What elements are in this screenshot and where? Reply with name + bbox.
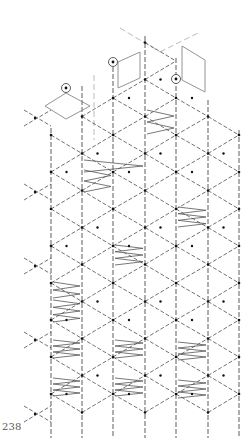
center-dot — [65, 393, 67, 395]
diagonal-line — [176, 246, 208, 265]
zigzag-thread — [53, 300, 80, 322]
diagonal-line — [113, 394, 145, 413]
diagonal-line — [145, 394, 176, 413]
center-dot — [128, 245, 130, 247]
pin-dot — [144, 300, 147, 303]
diagonal-line — [113, 228, 145, 247]
diagonal-line — [208, 339, 239, 358]
pin-dot — [207, 337, 210, 340]
diagonal-line — [51, 228, 82, 247]
pin-dot — [81, 263, 84, 266]
diagonal-line — [145, 209, 176, 228]
pin-dot — [81, 226, 84, 229]
diagonal-line — [82, 320, 113, 339]
pin-dot — [238, 134, 241, 137]
diagonal-line — [176, 154, 208, 173]
diagonal-line — [145, 172, 176, 191]
faint-line — [120, 28, 160, 52]
pin-dot — [238, 393, 241, 396]
pin-dot — [207, 300, 210, 303]
edge-dot — [34, 191, 36, 193]
pin-dot — [81, 411, 84, 414]
diagonal-line — [208, 172, 239, 191]
diagonal-line — [208, 302, 239, 321]
diagonal-line — [82, 191, 113, 210]
diamond-outline — [45, 93, 90, 119]
pin-dot — [238, 319, 241, 322]
pin-dot — [50, 282, 53, 285]
diagonal-line — [176, 135, 208, 154]
pin-dot — [175, 282, 178, 285]
center-dot — [191, 393, 193, 395]
diagonal-line — [176, 117, 208, 136]
diagonal-line — [145, 376, 176, 395]
diagonal-line — [51, 191, 82, 210]
diagonal-line — [82, 117, 113, 136]
zigzag-thread — [147, 110, 174, 134]
diagonal-line — [51, 394, 82, 413]
diagonal-line — [51, 135, 82, 154]
pin-dot — [175, 171, 178, 174]
pin-dot — [112, 319, 115, 322]
center-dot — [222, 300, 224, 302]
zigzag-thread — [53, 282, 80, 298]
diagonal-line — [113, 265, 145, 284]
pin-dot — [144, 189, 147, 192]
center-dot — [96, 374, 98, 376]
diagonal-line — [176, 228, 208, 247]
diagonal-line — [113, 320, 145, 339]
diagonal-line — [51, 357, 82, 376]
center-dot — [65, 319, 67, 321]
diagonal-line — [145, 265, 176, 284]
diagonal-line — [82, 135, 113, 154]
pin-dot — [207, 226, 210, 229]
diagonal-line — [176, 98, 208, 117]
pin-dot — [175, 393, 178, 396]
diagonal-line — [82, 357, 113, 376]
pin-dot — [81, 300, 84, 303]
pin-dot — [81, 189, 84, 192]
diagonal-line — [208, 320, 239, 339]
center-dot — [65, 171, 67, 173]
diagonal-line — [113, 357, 145, 376]
pin-dot — [81, 152, 84, 155]
diagonal-line — [82, 283, 113, 302]
pin-dot — [144, 226, 147, 229]
pin-dot — [112, 97, 115, 100]
diagonal-line — [51, 246, 82, 265]
pin-dot — [112, 171, 115, 174]
diamond-outline — [182, 46, 205, 92]
diagonal-line — [51, 320, 82, 339]
pin-dot — [50, 245, 53, 248]
diagonal-line — [145, 283, 176, 302]
diagonal-line — [208, 376, 239, 395]
pin-dot — [175, 208, 178, 211]
diagonal-line — [82, 339, 113, 358]
diagonal-line — [208, 265, 239, 284]
lace-pricking-diagram: 238 — [0, 0, 252, 446]
center-dot — [128, 97, 130, 99]
diagonal-line — [145, 80, 176, 99]
diagonal-line — [113, 98, 145, 117]
pin-dot — [50, 134, 53, 137]
edge-dot — [34, 413, 36, 415]
pin-dot — [144, 78, 147, 81]
circled-pins — [62, 58, 181, 93]
diagonal-line — [208, 283, 239, 302]
pricking-lattice — [0, 0, 252, 446]
pin-dot — [112, 208, 115, 211]
pin-dot — [144, 337, 147, 340]
pin-dot — [207, 411, 210, 414]
diagonal-line — [176, 320, 208, 339]
diamond-outlines — [45, 46, 205, 119]
center-dot — [159, 78, 161, 80]
diagonal-line — [51, 172, 82, 191]
pin-dot — [50, 319, 53, 322]
circled-pin-dot — [112, 61, 115, 64]
circled-pin-dot — [175, 78, 178, 81]
pin-dot — [238, 245, 241, 248]
pin-dot — [50, 171, 53, 174]
diagonal-line — [113, 209, 145, 228]
center-dot — [222, 152, 224, 154]
diagonal-line — [113, 191, 145, 210]
